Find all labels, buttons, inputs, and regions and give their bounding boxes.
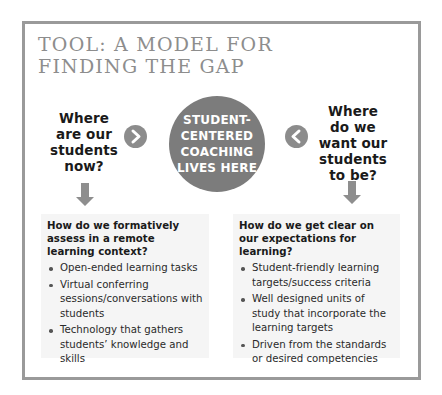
hub-line: CENTERED bbox=[181, 128, 253, 144]
hub-line: LIVES HERE bbox=[177, 160, 257, 176]
chevron-right-icon bbox=[124, 125, 147, 148]
bullet-list: Open-ended learning tasks Virtual confer… bbox=[47, 261, 203, 367]
current-state-question: Where are our students now? bbox=[38, 110, 130, 174]
list-item: Well designed units of study that incorp… bbox=[239, 292, 394, 336]
question-line: do we bbox=[306, 119, 400, 135]
question-line: want our bbox=[306, 135, 400, 151]
arrow-down-icon bbox=[343, 181, 361, 205]
learning-expectations-box: How do we get clear on our expectations … bbox=[233, 214, 400, 358]
box-heading: How do we get clear on our expectations … bbox=[239, 219, 394, 258]
list-item: Virtual conferring sessions/conversation… bbox=[47, 278, 203, 322]
arrow-down-icon bbox=[76, 183, 94, 207]
list-item: Open-ended learning tasks bbox=[47, 261, 203, 276]
title-line-1: TOOL: A MODEL FOR bbox=[38, 33, 273, 55]
question-line: now? bbox=[38, 158, 130, 174]
formative-assessment-box: How do we formatively assess in a remote… bbox=[41, 214, 209, 358]
question-line: are our bbox=[38, 126, 130, 142]
list-item: Technology that gathers students’ knowle… bbox=[47, 323, 203, 367]
bullet-list: Student-friendly learning targets/succes… bbox=[239, 261, 394, 367]
hub-line: COACHING bbox=[181, 144, 254, 160]
student-centered-coaching-hub: STUDENT- CENTERED COACHING LIVES HERE bbox=[169, 96, 265, 192]
list-item: Driven from the standards or desired com… bbox=[239, 338, 394, 367]
chevron-left-icon bbox=[285, 125, 308, 148]
diagram-title: TOOL: A MODEL FOR FINDING THE GAP bbox=[38, 33, 273, 77]
list-item: Student-friendly learning targets/succes… bbox=[239, 261, 394, 290]
title-line-2: FINDING THE GAP bbox=[38, 55, 273, 77]
question-line: students bbox=[38, 142, 130, 158]
box-heading: How do we formatively assess in a remote… bbox=[47, 219, 203, 258]
question-line: Where bbox=[306, 103, 400, 119]
hub-line: STUDENT- bbox=[183, 112, 251, 128]
question-line: Where bbox=[38, 110, 130, 126]
question-line: students bbox=[306, 151, 400, 167]
desired-state-question: Where do we want our students to be? bbox=[306, 103, 400, 183]
